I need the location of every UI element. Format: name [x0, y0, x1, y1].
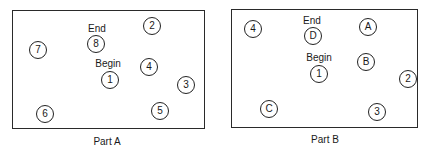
part-b-begin-label: Begin: [306, 52, 332, 63]
part-a-caption: Part A: [93, 136, 120, 147]
part-a-node-1: 1: [101, 71, 119, 89]
part-a-begin-label: Begin: [95, 58, 121, 69]
part-a-node-4: 4: [140, 58, 158, 76]
part-a-node-8: 8: [87, 35, 105, 53]
part-b-end-label: End: [303, 15, 321, 26]
part-b-node-4: 4: [244, 20, 262, 38]
part-b-node-d: D: [304, 27, 322, 45]
part-a-node-6: 6: [36, 105, 54, 123]
part-b-node-2: 2: [399, 70, 417, 88]
part-a-node-5: 5: [151, 102, 169, 120]
part-b-node-c: C: [260, 100, 278, 118]
part-a-node-3: 3: [177, 76, 195, 94]
part-b-node-a: A: [359, 18, 377, 36]
part-b-caption: Part B: [311, 134, 339, 145]
part-a-node-2: 2: [143, 17, 161, 35]
part-b-node-b: B: [357, 53, 375, 71]
part-b-node-1: 1: [310, 65, 328, 83]
part-a-end-label: End: [88, 23, 106, 34]
part-a-node-7: 7: [29, 41, 47, 59]
part-b-node-3: 3: [368, 103, 386, 121]
